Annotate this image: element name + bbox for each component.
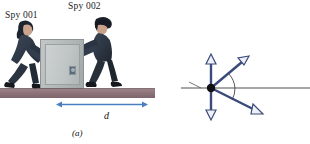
- vector-Fg-head: [206, 110, 216, 120]
- safe-dial-icon: [69, 66, 76, 75]
- vector-F2-shaft: [211, 62, 242, 88]
- safe-object: [40, 39, 84, 89]
- angle-arc-40: [229, 74, 235, 88]
- displacement-arrow: [56, 99, 148, 110]
- displacement-label: d: [104, 110, 109, 121]
- panel-a-scene: Spy 001 Spy 002: [0, 0, 155, 144]
- ground-surface: [0, 89, 155, 98]
- safe-inset-panel: [45, 44, 80, 85]
- free-body-diagram-vectors: [155, 0, 310, 144]
- physics-figure: Spy 001 Spy 002: [0, 0, 310, 144]
- panel-b-free-body-diagram: Safe → N → F2 → F1 → Fg 40°: [155, 0, 310, 144]
- panel-a-caption: (a): [72, 128, 83, 138]
- vector-F1-head: [251, 104, 263, 114]
- spy-002-label: Spy 002: [68, 1, 101, 11]
- safe-leader-line: [189, 82, 201, 88]
- origin-point: [207, 84, 215, 92]
- vector-N-head: [206, 54, 216, 64]
